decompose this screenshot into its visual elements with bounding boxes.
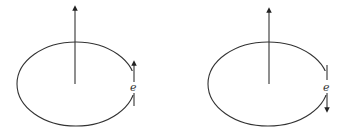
diagram-canvas: e e xyxy=(0,0,344,131)
left-orbit-ellipse xyxy=(17,42,135,126)
right-electron-label: e xyxy=(323,81,330,94)
right-panel: e xyxy=(208,10,334,126)
left-panel: e xyxy=(17,8,140,126)
left-electron-label: e xyxy=(130,81,137,94)
right-orbit-ellipse xyxy=(208,42,328,126)
